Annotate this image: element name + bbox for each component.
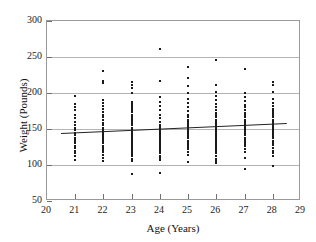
x-axis-tick-label: 27 bbox=[234, 205, 254, 215]
x-axis-tick-label: 21 bbox=[64, 205, 84, 215]
x-axis-tick-label: 22 bbox=[92, 205, 112, 215]
x-axis-tick-label: 28 bbox=[262, 205, 282, 215]
x-axis-tick-label: 24 bbox=[149, 205, 169, 215]
scatter-plot-figure: 50100150200250300 20212223242526272829 A… bbox=[0, 0, 316, 242]
plot-area bbox=[46, 20, 300, 200]
regression-trendline bbox=[61, 123, 287, 134]
trendline-layer bbox=[47, 21, 299, 199]
x-axis-title: Age (Years) bbox=[46, 223, 300, 234]
x-axis-tick-label: 23 bbox=[121, 205, 141, 215]
x-axis-tick-label: 20 bbox=[36, 205, 56, 215]
y-axis-tick bbox=[47, 201, 52, 202]
x-axis-tick-label: 26 bbox=[205, 205, 225, 215]
x-axis-tick-label: 25 bbox=[177, 205, 197, 215]
y-axis-title: Weight (Pounds) bbox=[18, 46, 29, 186]
y-axis-tick-label: 300 bbox=[14, 15, 42, 25]
y-axis-tick-label: 50 bbox=[14, 195, 42, 205]
x-axis-tick-label: 29 bbox=[290, 205, 310, 215]
